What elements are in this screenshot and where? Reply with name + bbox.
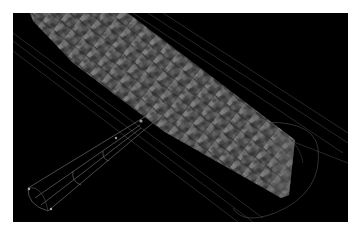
inlet-tube-wireframe	[28, 105, 165, 211]
scene-render	[13, 13, 348, 222]
render-viewport	[13, 13, 348, 222]
